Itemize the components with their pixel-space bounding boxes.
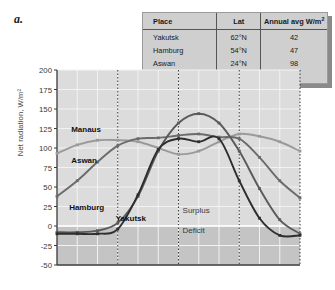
data-point-aswan [197, 133, 200, 136]
data-point-yakutsk [299, 234, 302, 237]
data-point-aswan [76, 179, 79, 182]
chart-area: Net radiation, W/m² 20017515012510075502… [0, 0, 335, 290]
data-point-aswan [56, 195, 59, 198]
data-point-yakutsk [157, 148, 160, 151]
data-point-hamburg [177, 122, 180, 125]
y-tick-label: 50 [16, 183, 52, 192]
data-point-yakutsk [258, 217, 261, 220]
data-point-aswan [258, 156, 261, 159]
data-point-manaus [278, 140, 281, 143]
data-point-yakutsk [177, 137, 180, 140]
annotation-surplus: Surplus [183, 206, 210, 215]
y-tick-label: -50 [16, 261, 52, 270]
data-point-hamburg [218, 122, 221, 125]
data-point-yakutsk [76, 232, 79, 235]
data-point-aswan [177, 134, 180, 137]
data-point-manaus [177, 153, 180, 156]
curve-label-aswan: Aswan [71, 156, 97, 165]
data-point-manaus [116, 139, 119, 142]
data-point-yakutsk [116, 228, 119, 231]
y-tick-label: 200 [16, 66, 52, 75]
curve-label-yakutsk: Yakutsk [116, 214, 146, 223]
data-point-yakutsk [238, 179, 241, 182]
data-point-aswan [116, 144, 119, 147]
data-point-hamburg [197, 112, 200, 115]
y-axis-ticks: 2001751501251007550250-25-50 [14, 0, 52, 290]
data-point-manaus [56, 152, 59, 155]
y-tick-label: 175 [16, 85, 52, 94]
y-tick-label: -25 [16, 241, 52, 250]
y-tick-label: 75 [16, 163, 52, 172]
curve-label-manaus: Manaus [71, 125, 101, 134]
data-point-yakutsk [56, 232, 59, 235]
data-point-yakutsk [278, 234, 281, 237]
data-point-yakutsk [137, 193, 140, 196]
annotation-deficit: Deficit [183, 226, 205, 235]
data-point-aswan [157, 136, 160, 139]
data-point-manaus [258, 135, 261, 138]
data-point-hamburg [238, 150, 241, 153]
data-point-hamburg [278, 218, 281, 221]
data-point-yakutsk [96, 232, 99, 235]
y-tick-label: 0 [16, 222, 52, 231]
y-tick-label: 125 [16, 124, 52, 133]
data-point-manaus [197, 150, 200, 153]
y-tick-label: 100 [16, 144, 52, 153]
data-point-manaus [96, 139, 99, 142]
data-point-yakutsk [197, 140, 200, 143]
data-point-manaus [238, 133, 241, 136]
figure-root: a. Place Lat Annual avg W/m2 Yakutsk62°N… [0, 0, 335, 290]
curve-label-hamburg: Hamburg [69, 203, 104, 212]
data-point-aswan [238, 137, 241, 140]
data-point-manaus [76, 143, 79, 146]
data-point-hamburg [96, 229, 99, 232]
data-point-yakutsk [218, 137, 221, 140]
data-point-hamburg [258, 187, 261, 190]
data-point-manaus [137, 140, 140, 143]
data-point-aswan [137, 137, 140, 140]
data-point-manaus [299, 150, 302, 153]
y-tick-label: 25 [16, 202, 52, 211]
data-point-aswan [278, 179, 281, 182]
y-tick-label: 150 [16, 105, 52, 114]
data-point-aswan [299, 197, 302, 200]
